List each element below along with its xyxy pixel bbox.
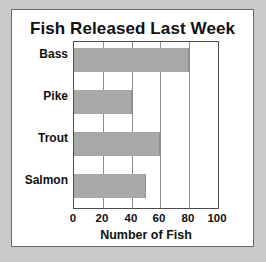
x-tick-label-80: 80 — [182, 212, 195, 224]
x-axis-label: Number of Fish — [73, 228, 219, 242]
bar-pike — [74, 90, 132, 114]
bar-bass — [74, 48, 189, 72]
x-tick-label-0: 0 — [70, 212, 76, 224]
x-tick-label-20: 20 — [96, 212, 109, 224]
chart-title: Fish Released Last Week — [12, 19, 253, 39]
chart-card: Fish Released Last Week Bass Pike Trout … — [11, 9, 254, 247]
category-axis-labels: Bass Pike Trout Salmon — [12, 41, 68, 209]
bar-series — [74, 42, 218, 208]
plot-area — [73, 41, 219, 209]
x-tick-label-100: 100 — [207, 212, 226, 224]
category-label-bass: Bass — [12, 47, 68, 61]
category-label-pike: Pike — [12, 89, 68, 103]
bar-salmon — [74, 174, 146, 198]
category-label-salmon: Salmon — [12, 173, 68, 187]
bar-trout — [74, 132, 160, 156]
x-axis-tick-labels: 020406080100 — [73, 212, 219, 228]
category-label-trout: Trout — [12, 131, 68, 145]
x-tick-label-40: 40 — [125, 212, 138, 224]
x-tick-label-60: 60 — [153, 212, 166, 224]
